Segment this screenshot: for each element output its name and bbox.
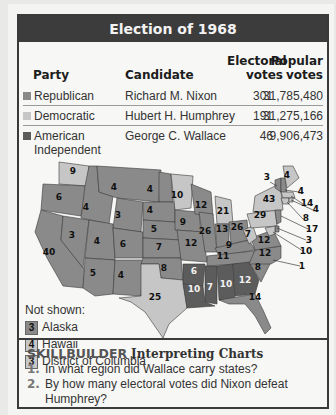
state-fl xyxy=(219,294,271,334)
map-vote-label: 4 xyxy=(147,205,153,215)
map-vote-label: 12 xyxy=(258,235,271,245)
map-vote-label: 14 xyxy=(249,292,262,302)
democratic-swatch xyxy=(23,112,31,120)
state-az xyxy=(83,258,115,296)
header-popular-line2: votes xyxy=(269,68,323,82)
map-vote-label: 8 xyxy=(303,213,309,223)
map-vote-label: 26 xyxy=(231,222,244,232)
candidate-cell: Richard M. Nixon xyxy=(125,89,217,103)
map-vote-label: 11 xyxy=(217,251,230,261)
header-popular: Popular votes xyxy=(269,54,323,82)
map-vote-label: 8 xyxy=(255,262,261,272)
skillbuilder-box: SKILLBUILDERInterpreting Charts 1. In wh… xyxy=(27,346,323,407)
map-vote-label: 6 xyxy=(56,192,62,202)
american-independent-swatch xyxy=(23,132,31,140)
map-vote-label: 5 xyxy=(90,268,96,278)
map-vote-label: 10 xyxy=(188,284,201,294)
state-co xyxy=(113,228,143,258)
map-vote-label: 40 xyxy=(43,247,56,257)
map-vote-label: 25 xyxy=(149,292,162,302)
state-name: Alaska xyxy=(42,319,78,336)
map-vote-label: 13 xyxy=(216,224,229,234)
party-label: Republican xyxy=(34,89,94,103)
party-cell: Democratic xyxy=(23,109,95,123)
map-vote-label: 17 xyxy=(306,224,319,234)
question-text: In what region did Wallace carry states? xyxy=(45,362,323,377)
map-vote-label: 8 xyxy=(161,263,167,273)
header-party: Party xyxy=(33,68,69,82)
map-vote-label: 29 xyxy=(254,210,267,220)
map-vote-label: 9 xyxy=(70,166,76,176)
republican-swatch xyxy=(23,92,31,100)
map-vote-label: 3 xyxy=(69,230,75,240)
map-vote-label: 12 xyxy=(259,248,272,258)
row-divider xyxy=(23,105,323,106)
party-cell: Republican xyxy=(23,89,94,103)
question-number: 1. xyxy=(27,362,45,377)
state-or xyxy=(41,184,87,216)
map-vote-label: 21 xyxy=(217,206,230,216)
map-vote-label: 7 xyxy=(156,242,162,252)
map-vote-label: 4 xyxy=(284,170,290,180)
party-label: Democratic xyxy=(34,109,95,123)
row-divider xyxy=(23,125,323,126)
question-number: 2. xyxy=(27,377,45,407)
popular-cell: 31,275,166 xyxy=(243,109,323,123)
not-shown-item: 3Alaska xyxy=(25,319,146,336)
map-vote-label: 5 xyxy=(151,224,157,234)
question-text: By how many electoral votes did Nixon de… xyxy=(45,377,323,407)
popular-cell: 31,785,480 xyxy=(243,89,323,103)
map-vote-label: 43 xyxy=(263,194,276,204)
map-vote-label: 3 xyxy=(306,235,312,245)
map-vote-label: 10 xyxy=(220,279,233,289)
map-vote-label: 6 xyxy=(191,266,197,276)
map-vote-label: 10 xyxy=(171,190,184,200)
skillbuilder-subtitle: Interpreting Charts xyxy=(131,347,263,361)
question-item: 1. In what region did Wallace carry stat… xyxy=(27,362,323,377)
candidate-cell: Hubert H. Humphrey xyxy=(125,109,235,123)
map-vote-label: 3 xyxy=(115,210,121,220)
map-vote-label: 4 xyxy=(147,184,153,194)
state-de xyxy=(275,226,279,232)
map-vote-label: 4 xyxy=(111,182,117,192)
map-vote-label: 14 xyxy=(301,198,314,208)
map-vote-label: 1 xyxy=(299,261,305,271)
map-vote-label: 12 xyxy=(185,238,198,248)
header-popular-line1: Popular xyxy=(269,54,323,68)
map-vote-label: 12 xyxy=(239,275,252,285)
map-vote-label: 9 xyxy=(180,217,186,227)
map-vote-label: 10 xyxy=(300,246,313,256)
question-item: 2. By how many electoral votes did Nixon… xyxy=(27,377,323,407)
map-vote-label: 12 xyxy=(195,200,208,210)
map-vote-label: 4 xyxy=(83,202,89,212)
map-vote-label: 3 xyxy=(264,172,270,182)
map-vote-label: 4 xyxy=(313,204,319,214)
chart-title: Election of 1968 xyxy=(19,16,327,42)
map-vote-label: 26 xyxy=(199,226,212,236)
map-vote-label: 4 xyxy=(298,186,304,196)
header-candidate: Candidate xyxy=(125,68,194,82)
skillbuilder-label: SKILLBUILDER xyxy=(27,346,127,361)
map-vote-label: 9 xyxy=(226,240,232,250)
map-vote-label: 7 xyxy=(207,282,213,292)
section-divider xyxy=(19,338,327,340)
election-chart-frame: Election of 1968 Party Candidate Elector… xyxy=(17,14,329,409)
map-vote-label: 7 xyxy=(245,229,251,239)
skillbuilder-heading: SKILLBUILDERInterpreting Charts xyxy=(27,346,323,362)
map-vote-label: 4 xyxy=(118,270,124,280)
map-vote-label: 4 xyxy=(94,236,100,246)
not-shown-label: Not shown: xyxy=(25,302,146,319)
alaska-votes-badge: 3 xyxy=(25,321,38,335)
map-vote-label: 6 xyxy=(120,239,126,249)
